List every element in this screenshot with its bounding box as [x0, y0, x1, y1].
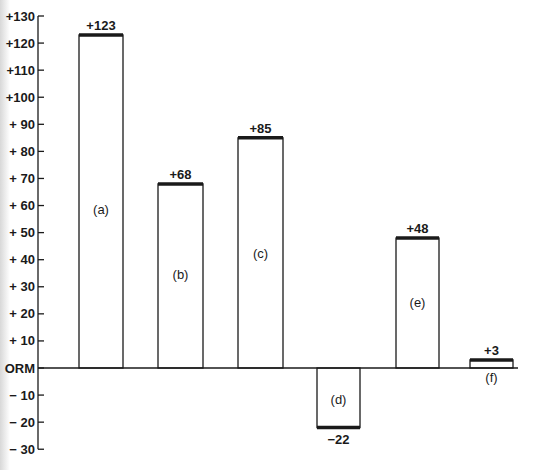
y-tick-label: − 10 — [9, 388, 35, 403]
bar-value-label: −22 — [327, 432, 349, 447]
bar-d: −22(d) — [317, 368, 360, 447]
bar-category-label: (b) — [173, 267, 189, 282]
bar-category-label: (f) — [485, 370, 497, 385]
y-tick-label: − 30 — [9, 442, 35, 457]
y-tick-label: + 30 — [9, 279, 35, 294]
bar-value-label: +85 — [249, 121, 271, 136]
y-tick-label: + 10 — [9, 333, 35, 348]
bar-c: +85(c) — [238, 121, 283, 368]
bar-value-label: +48 — [406, 221, 428, 236]
y-tick-label: +100 — [6, 90, 35, 105]
bars: +123(a)+68(b)+85(c)−22(d)+48(e)+3(f) — [79, 18, 513, 447]
y-tick-label: + 50 — [9, 225, 35, 240]
y-axis: +130+120+110+100+ 90+ 80+ 70+ 60+ 50+ 40… — [5, 9, 44, 457]
y-tick-label: +120 — [6, 36, 35, 51]
y-tick-label: +110 — [6, 63, 35, 78]
bar-value-label: +123 — [86, 18, 115, 33]
y-tick-label: + 20 — [9, 306, 35, 321]
y-tick-label: + 90 — [9, 117, 35, 132]
y-tick-label: + 70 — [9, 171, 35, 186]
bar-a: +123(a) — [79, 18, 123, 368]
bar-e: +48(e) — [396, 221, 439, 368]
y-tick-label: + 40 — [9, 252, 35, 267]
bar-category-label: (d) — [331, 392, 347, 407]
bar-chart: +130+120+110+100+ 90+ 80+ 70+ 60+ 50+ 40… — [0, 0, 537, 470]
bar-category-label: (e) — [410, 295, 426, 310]
y-tick-label: +130 — [6, 9, 35, 24]
y-tick-label: − 20 — [9, 415, 35, 430]
bar-b: +68(b) — [158, 167, 203, 368]
bar-f: +3(f) — [470, 343, 513, 385]
bar-category-label: (c) — [253, 246, 268, 261]
y-tick-label: ORM — [5, 361, 35, 376]
bar-value-label: +3 — [484, 343, 499, 358]
y-tick-label: + 80 — [9, 144, 35, 159]
y-tick-label: + 60 — [9, 198, 35, 213]
bar-category-label: (a) — [93, 202, 109, 217]
bar-value-label: +68 — [169, 167, 191, 182]
